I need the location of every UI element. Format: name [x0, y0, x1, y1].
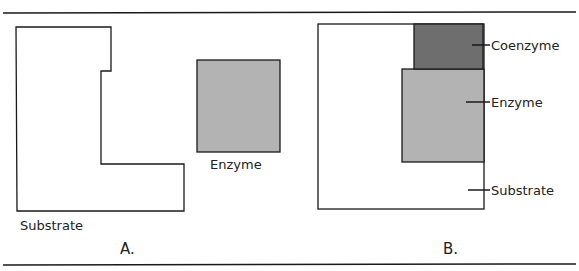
coenzyme-block-b — [414, 24, 483, 69]
caption-b: B. — [443, 240, 458, 258]
enzyme-square-a — [197, 60, 280, 152]
substrate-label-b: Substrate — [491, 183, 554, 198]
enzyme-label-a: Enzyme — [210, 157, 262, 172]
panel-a: Enzyme Substrate A. — [16, 27, 280, 258]
substrate-label-a: Substrate — [20, 218, 83, 233]
caption-a: A. — [120, 240, 135, 258]
enzyme-label-b: Enzyme — [491, 95, 543, 110]
enzyme-block-b — [402, 69, 484, 162]
coenzyme-label-b: Coenzyme — [491, 38, 559, 53]
bottom-rule — [3, 264, 576, 265]
top-rule — [3, 12, 576, 13]
panel-b: Coenzyme Enzyme Substrate B. — [318, 24, 559, 258]
substrate-shape-a — [16, 27, 184, 211]
enzyme-substrate-diagram: Enzyme Substrate A. Coenzyme Enzyme Subs… — [0, 0, 579, 271]
